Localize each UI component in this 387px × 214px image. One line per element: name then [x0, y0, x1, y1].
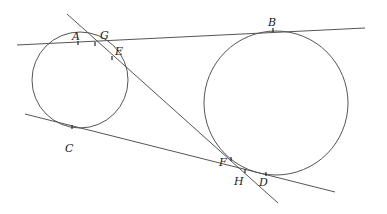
circle-small — [32, 32, 128, 128]
lines-group — [17, 14, 365, 203]
point-label-g: G — [100, 29, 109, 42]
point-label-c: C — [65, 142, 74, 155]
line-transversal — [67, 14, 278, 203]
circle-large — [204, 31, 348, 175]
point-label-a: A — [71, 30, 80, 43]
geometry-diagram: AGEBCFHD — [0, 0, 387, 214]
point-label-b: B — [267, 16, 276, 29]
point-label-h: H — [233, 175, 244, 188]
line-top-tangent — [17, 28, 365, 45]
point-label-d: D — [258, 176, 268, 189]
points-group: AGEBCFHD — [65, 16, 276, 189]
point-label-e: E — [114, 45, 123, 58]
point-label-f: F — [218, 156, 227, 169]
circles-group — [32, 31, 348, 175]
